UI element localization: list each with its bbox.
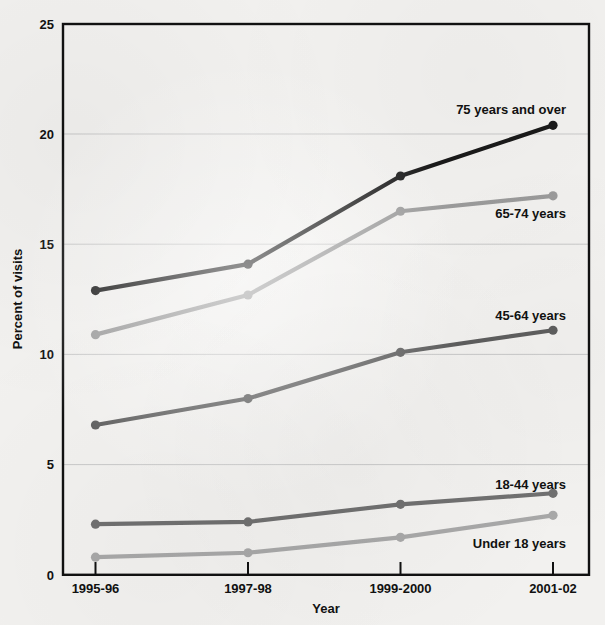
data-point <box>548 511 557 520</box>
x-tick-1999-2000: 1999-2000 <box>369 581 431 596</box>
y-tick-5: 5 <box>47 457 54 472</box>
data-point <box>91 553 100 562</box>
data-point <box>243 517 252 526</box>
y-tick-20: 20 <box>40 127 54 142</box>
data-point <box>396 207 405 216</box>
y-tick-0: 0 <box>47 568 54 583</box>
data-point <box>396 500 405 509</box>
data-point <box>91 330 100 339</box>
series-75-years-and-over <box>91 121 558 295</box>
data-point <box>396 533 405 542</box>
y-axis-title: Percent of visits <box>10 249 25 349</box>
y-tick-25: 25 <box>40 17 54 32</box>
series-line <box>96 196 554 335</box>
data-point <box>548 326 557 335</box>
data-point <box>548 121 557 130</box>
series-label-18-44: 18-44 years <box>495 477 566 492</box>
x-axis-tick-labels: 1995-96 1997-98 1999-2000 2001-02 <box>72 581 577 596</box>
x-axis-title: Year <box>312 601 339 616</box>
x-tick-1995-96: 1995-96 <box>72 581 120 596</box>
data-point <box>243 394 252 403</box>
series-label-65-74: 65-74 years <box>495 206 566 221</box>
series-label-under-18: Under 18 years <box>473 536 566 551</box>
data-point <box>243 290 252 299</box>
series-label-75-and-over: 75 years and over <box>456 102 566 117</box>
data-point <box>548 191 557 200</box>
series-line <box>96 493 554 524</box>
data-point <box>91 520 100 529</box>
data-point <box>243 260 252 269</box>
series-45-64-years <box>91 326 558 430</box>
series-65-74-years <box>91 191 558 339</box>
series-label-45-64: 45-64 years <box>495 308 566 323</box>
y-tick-10: 10 <box>40 347 54 362</box>
y-tick-15: 15 <box>40 237 54 252</box>
data-point <box>396 348 405 357</box>
series-line <box>96 125 554 290</box>
x-tick-2001-02: 2001-02 <box>529 581 577 596</box>
data-series-layer <box>91 121 558 562</box>
chart-canvas: 25 20 15 10 5 0 1995-96 1997-98 1999-200… <box>0 0 605 625</box>
data-point <box>243 548 252 557</box>
line-chart-figure: 25 20 15 10 5 0 1995-96 1997-98 1999-200… <box>0 0 605 625</box>
data-point <box>91 420 100 429</box>
data-point <box>91 286 100 295</box>
y-axis-tick-labels: 25 20 15 10 5 0 <box>40 17 54 583</box>
x-axis-ticks <box>96 562 554 575</box>
series-line <box>96 330 554 425</box>
data-point <box>396 171 405 180</box>
x-tick-1997-98: 1997-98 <box>224 581 272 596</box>
series-labels: 75 years and over 65-74 years 45-64 year… <box>456 102 566 551</box>
